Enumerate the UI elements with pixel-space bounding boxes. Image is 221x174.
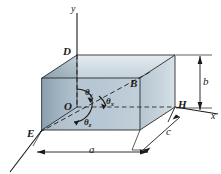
- dimension-label-b: b: [203, 76, 209, 87]
- point-label-H: H: [178, 99, 187, 110]
- theta-x-subscript: x: [111, 100, 114, 107]
- dimension-a-ext-left: [33, 130, 42, 146]
- point-label-D: D: [63, 46, 71, 57]
- angle-label-theta-z: θz: [84, 118, 91, 127]
- y-axis-label: y: [71, 4, 75, 14]
- dimension-c-ext-bottom: [132, 130, 140, 150]
- x-axis-label: x: [211, 111, 215, 121]
- point-label-B: B: [130, 78, 137, 89]
- point-label-E: E: [27, 128, 34, 139]
- angle-label-theta-y: θy: [85, 88, 93, 97]
- figure-canvas: y x D B E H O θy θx θz a b c: [0, 0, 221, 174]
- point-label-O: O: [64, 101, 72, 112]
- dimension-label-a: a: [89, 144, 95, 155]
- theta-y-symbol: θ: [85, 87, 90, 97]
- dimension-label-c: c: [166, 126, 171, 137]
- z-axis-line: [10, 130, 42, 172]
- theta-z-subscript: z: [89, 121, 92, 128]
- diagram-vector-graphics: [0, 0, 221, 174]
- theta-y-subscript: y: [90, 91, 93, 98]
- angle-label-theta-x: θx: [106, 97, 114, 106]
- theta-x-symbol: θ: [106, 96, 111, 106]
- theta-z-symbol: θ: [84, 117, 89, 127]
